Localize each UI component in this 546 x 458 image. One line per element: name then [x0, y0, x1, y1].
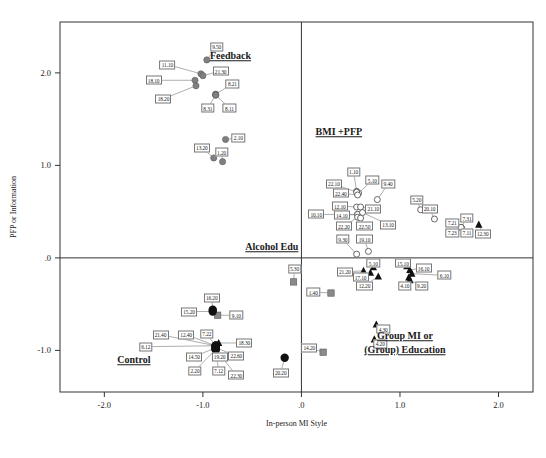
data-point-filled-circle[interactable]	[219, 159, 225, 165]
point-label[interactable]: 21.20	[337, 267, 353, 276]
y-tick-label: 1.0	[40, 160, 51, 170]
group-annotation-group-mi-or: Group MI or	[377, 330, 433, 342]
group-annotation-bmi-pfp: BMI +PFP	[316, 126, 363, 138]
data-point-square[interactable]	[328, 290, 334, 296]
point-label[interactable]: 12.20	[356, 281, 372, 290]
data-point-filled-circle[interactable]	[222, 136, 228, 142]
data-point-open-circle[interactable]	[358, 215, 364, 221]
point-label[interactable]: 5.30	[288, 264, 301, 273]
point-label[interactable]: 21.10	[365, 204, 381, 213]
data-point-open-circle[interactable]	[358, 204, 364, 210]
point-label[interactable]: 5.20	[410, 195, 423, 204]
y-tick-label: .0	[45, 253, 51, 263]
x-tick-label: -2.0	[98, 400, 111, 410]
point-label[interactable]: 12.10	[332, 202, 348, 211]
point-label[interactable]: 20.10	[422, 204, 438, 213]
point-label[interactable]: 5.10	[367, 259, 380, 268]
point-label[interactable]: 11.10	[160, 60, 176, 69]
point-label[interactable]: 15.20	[181, 307, 197, 316]
data-point-triangle[interactable]	[475, 221, 482, 228]
point-label[interactable]: 2.20	[188, 366, 201, 375]
point-label[interactable]: 8.11	[223, 104, 236, 113]
point-label[interactable]: 9.30	[336, 235, 349, 244]
point-label[interactable]: 13.10	[380, 220, 396, 229]
x-axis-title: In-person MI Style	[266, 419, 327, 428]
point-label[interactable]: 7.21	[445, 218, 458, 227]
point-label[interactable]: 19.10	[356, 235, 372, 244]
point-label[interactable]: 15.10	[395, 259, 411, 268]
data-point-black-circle[interactable]	[209, 307, 217, 315]
point-label[interactable]: 22.10	[326, 179, 342, 188]
point-label[interactable]: 8.31	[201, 104, 214, 113]
point-label[interactable]: 7.22	[200, 329, 213, 338]
data-point-filled-circle[interactable]	[213, 92, 219, 98]
point-label[interactable]: 9.40	[381, 179, 394, 188]
x-tick-label: 2.0	[493, 400, 504, 410]
point-label[interactable]: 18.20	[155, 94, 171, 103]
data-point-filled-circle[interactable]	[200, 73, 206, 79]
point-label[interactable]: 14.50	[186, 352, 202, 361]
data-point-square[interactable]	[320, 349, 326, 355]
point-label[interactable]: 1.10	[347, 167, 360, 176]
point-label[interactable]: 12.40	[178, 330, 194, 339]
data-point-filled-circle[interactable]	[193, 83, 199, 89]
group-annotation-group-education: (Group) Education	[364, 345, 445, 357]
point-label[interactable]: 16.20	[204, 293, 220, 302]
point-label[interactable]: 2.10	[232, 133, 245, 142]
data-point-square[interactable]	[290, 279, 296, 285]
x-tick-label: .0	[298, 400, 304, 410]
point-label[interactable]: 1.20	[215, 148, 228, 157]
data-point-open-circle[interactable]	[355, 192, 361, 198]
point-label[interactable]: 8.21	[226, 79, 239, 88]
point-label[interactable]: 22.50	[356, 222, 372, 231]
data-point-open-circle[interactable]	[365, 248, 371, 254]
point-label[interactable]: 22.40	[333, 189, 349, 198]
data-point-open-circle[interactable]	[374, 197, 380, 203]
point-label[interactable]: 6.10	[438, 271, 451, 280]
data-point-open-circle[interactable]	[431, 216, 437, 222]
point-label[interactable]: 5.10	[366, 176, 379, 185]
point-label[interactable]: 14.10	[334, 211, 350, 220]
data-point-filled-circle[interactable]	[192, 77, 198, 83]
data-point-black-circle[interactable]	[280, 354, 288, 362]
group-annotation-feedback: Feedback	[210, 50, 251, 62]
point-label[interactable]: 20.20	[273, 368, 289, 377]
point-label[interactable]: 9.10	[230, 311, 243, 320]
y-tick-label: 2.0	[40, 68, 51, 78]
point-label[interactable]: 22.30	[228, 371, 244, 380]
point-label[interactable]: 7.23	[445, 228, 458, 237]
y-axis-title: PFP or Information	[9, 176, 18, 238]
point-label[interactable]: 14.20	[301, 343, 317, 352]
point-label[interactable]: 9.20	[415, 281, 428, 290]
point-label[interactable]: 18.10	[146, 76, 162, 85]
point-label[interactable]: 16.10	[416, 264, 432, 273]
point-label[interactable]: 7.31	[460, 214, 473, 223]
point-label[interactable]: 13.20	[194, 143, 210, 152]
point-label[interactable]: 10.10	[308, 210, 324, 219]
y-tick-label: -1.0	[38, 345, 51, 355]
point-label[interactable]: 22.60	[228, 351, 244, 360]
x-tick-label: 1.0	[395, 400, 406, 410]
point-label[interactable]: 22.20	[336, 222, 352, 231]
data-point-open-circle[interactable]	[354, 251, 360, 257]
point-label[interactable]: 21.40	[152, 330, 168, 339]
data-point-triangle[interactable]	[375, 272, 382, 279]
point-label[interactable]: 21.30	[213, 67, 229, 76]
point-label[interactable]: 7.12	[212, 366, 225, 375]
group-annotation-control: Control	[117, 354, 150, 366]
scatter-plot-figure: -2.0-1.0.01.02.02.01.0.0-1.0In-person MI…	[0, 0, 546, 458]
x-tick-label: -1.0	[196, 400, 209, 410]
point-label[interactable]: 7.11	[460, 228, 473, 237]
point-label[interactable]: 19.20	[212, 352, 228, 361]
point-label[interactable]: 12.30	[475, 229, 491, 238]
point-label[interactable]: 6.12	[139, 342, 152, 351]
leader-line	[146, 346, 216, 347]
point-label[interactable]: 1.40	[307, 288, 320, 297]
point-label[interactable]: 4.10	[398, 281, 411, 290]
group-annotation-alcohol-edu: Alcohol Edu	[245, 241, 298, 253]
plot-frame	[60, 22, 533, 392]
point-label[interactable]: 18.30	[236, 338, 252, 347]
